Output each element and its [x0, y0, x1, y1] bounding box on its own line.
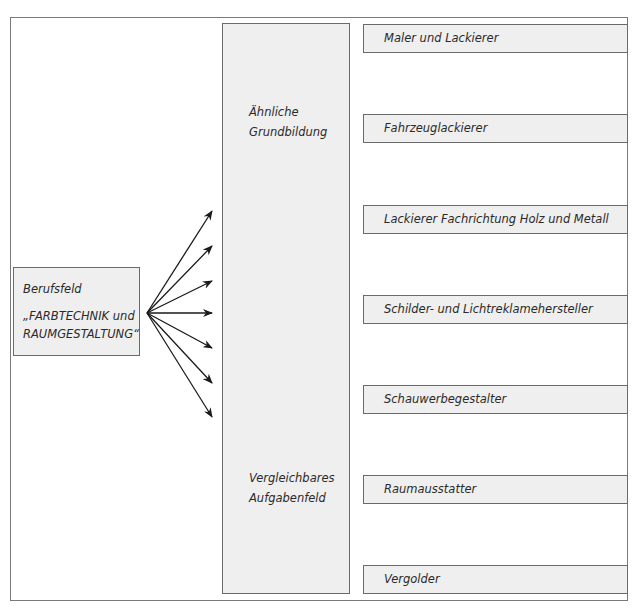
arrow-2 — [147, 246, 212, 313]
similar-basic-training-label: Ähnliche Grundbildung — [249, 102, 327, 142]
profession-label: Fahrzeuglackierer — [384, 121, 487, 135]
middle-category-box: Ähnliche Grundbildung Vergleichbares Auf… — [222, 23, 350, 594]
profession-box-vergolder: Vergolder — [363, 565, 628, 594]
arrow-7 — [147, 313, 212, 417]
similar-basic-training-line2: Grundbildung — [249, 122, 327, 142]
profession-label: Schauwerbegestalter — [384, 392, 506, 406]
arrow-5 — [147, 313, 212, 348]
profession-label: Vergolder — [384, 572, 440, 586]
profession-box-schilder-lichtreklame: Schilder- und Lichtreklamehersteller — [363, 295, 628, 324]
profession-label: Lackierer Fachrichtung Holz und Metall — [384, 212, 609, 226]
profession-box-maler: Maler und Lackierer — [363, 24, 628, 53]
profession-box-fahrzeuglackierer: Fahrzeuglackierer — [363, 114, 628, 143]
profession-box-lackierer-holz-metall: Lackierer Fachrichtung Holz und Metall — [363, 205, 628, 234]
comparable-task-field-label: Vergleichbares Aufgabenfeld — [249, 468, 335, 508]
arrow-6 — [147, 313, 212, 383]
comparable-task-field-line1: Vergleichbares — [249, 468, 335, 488]
profession-label: Raumausstatter — [384, 482, 476, 496]
profession-label: Maler und Lackierer — [384, 31, 498, 45]
profession-box-schauwerbegestalter: Schauwerbegestalter — [363, 385, 628, 414]
profession-box-raumausstatter: Raumausstatter — [363, 475, 628, 504]
comparable-task-field-line2: Aufgabenfeld — [249, 488, 335, 508]
similar-basic-training-line1: Ähnliche — [249, 102, 327, 122]
profession-label: Schilder- und Lichtreklamehersteller — [384, 302, 593, 316]
